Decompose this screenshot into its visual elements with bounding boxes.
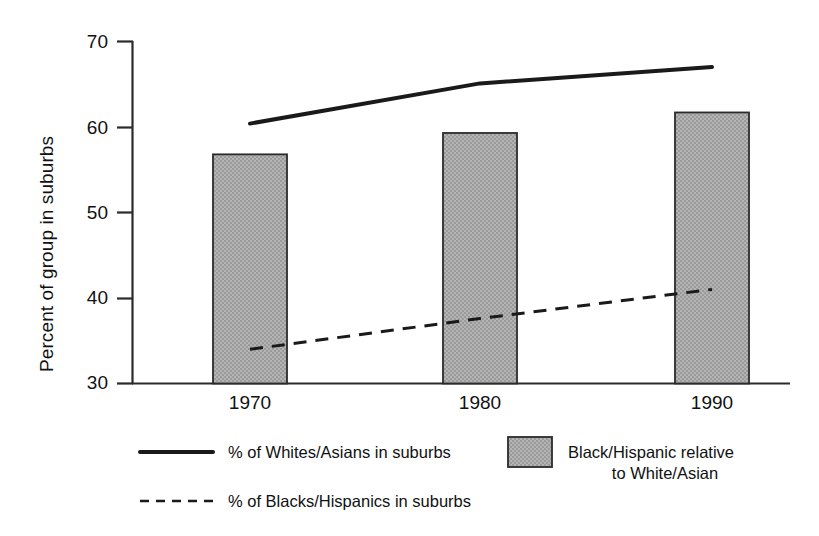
bar-series-black-hispanic-relative <box>213 112 749 383</box>
legend-bar-swatch <box>508 437 552 467</box>
chart-figure: Percent of group in suburbs 70 60 50 40 … <box>0 0 819 536</box>
legend-label-blacks-hispanics: % of Blacks/Hispanics in suburbs <box>228 491 471 512</box>
legend-label-bar-line1: Black/Hispanic relative <box>568 442 734 463</box>
bar-1980 <box>443 133 517 384</box>
legend-label-bar-line2: to White/Asian <box>568 463 762 484</box>
line-whites-asians-suburbs <box>250 67 712 124</box>
bar-1990 <box>675 112 749 383</box>
legend-label-whites-asians: % of Whites/Asians in suburbs <box>228 442 451 463</box>
